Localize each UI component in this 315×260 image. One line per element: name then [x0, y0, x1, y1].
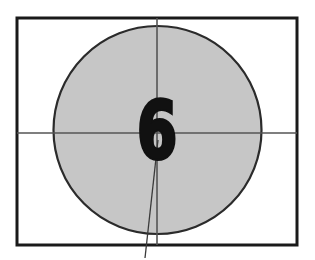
leader-canvas: 6 [0, 0, 315, 260]
countdown-leader-frame: 6 [0, 0, 315, 260]
countdown-digit-6: 6 [137, 85, 177, 176]
